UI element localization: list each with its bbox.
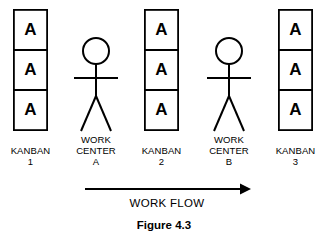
work-center-b-label-line2: CENTER <box>209 145 249 156</box>
kanban-card-letter: A <box>289 100 301 119</box>
work-center-a-label-line3: A <box>93 156 100 167</box>
work-center-b-label-line3: B <box>226 156 232 167</box>
stick-figure-leg-right <box>229 96 244 131</box>
work-flow-arrow-head-icon <box>240 184 251 195</box>
kanban-card-letter: A <box>155 60 167 79</box>
kanban-card-letter: A <box>24 100 36 119</box>
kanban-card-letter: A <box>155 100 167 119</box>
work-center-a-figure: WORK CENTER A <box>74 38 118 167</box>
kanban-card-letter: A <box>155 20 167 39</box>
work-center-a-label-line2: CENTER <box>76 145 116 156</box>
work-center-b-figure: WORK CENTER B <box>207 38 251 167</box>
kanban-stack-2-label-line2: 2 <box>159 156 164 167</box>
kanban-card-letter: A <box>289 60 301 79</box>
kanban-stack-3-label-line1: KANBAN <box>276 145 316 156</box>
work-flow-label: WORK FLOW <box>130 197 205 209</box>
kanban-stack-1-label-line2: 1 <box>28 156 33 167</box>
figure-caption: Figure 4.3 <box>137 219 191 231</box>
work-flow-arrow: WORK FLOW <box>85 184 251 210</box>
kanban-card-letter: A <box>24 20 36 39</box>
kanban-stack-1-label-line1: KANBAN <box>11 145 51 156</box>
kanban-stack-3-label-line2: 3 <box>293 156 298 167</box>
work-center-b-label-line1: WORK <box>214 134 245 145</box>
kanban-stack-2-label-line1: KANBAN <box>142 145 182 156</box>
stick-figure-head-icon <box>83 38 109 64</box>
kanban-stack-3: A A A KANBAN 3 <box>276 10 316 167</box>
stick-figure-leg-left <box>214 96 229 131</box>
kanban-workflow-figure: A A A KANBAN 1 WORK CENTER A A A A KANBA… <box>0 0 324 236</box>
work-center-a-label-line1: WORK <box>81 134 112 145</box>
kanban-card-letter: A <box>24 60 36 79</box>
stick-figure-head-icon <box>216 38 242 64</box>
kanban-stack-1: A A A KANBAN 1 <box>11 10 51 167</box>
kanban-stack-2: A A A KANBAN 2 <box>142 10 182 167</box>
stick-figure-leg-right <box>96 96 111 131</box>
diagram-canvas: A A A KANBAN 1 WORK CENTER A A A A KANBA… <box>0 0 324 236</box>
stick-figure-leg-left <box>81 96 96 131</box>
kanban-card-letter: A <box>289 20 301 39</box>
